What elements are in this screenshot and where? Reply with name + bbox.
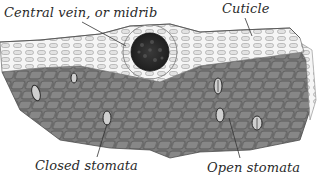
leaf-diagram: Central vein, or midrib Cuticle Closed s… — [0, 0, 323, 182]
midrib-label: Central vein, or midrib — [4, 5, 157, 20]
closed-stomata-label: Closed stomata — [35, 158, 138, 173]
stoma-icon — [216, 108, 224, 122]
open-stomata-label: Open stomata — [207, 160, 300, 175]
stoma-icon — [71, 73, 77, 83]
leaf-illustration — [0, 0, 323, 182]
cuticle-label: Cuticle — [222, 1, 270, 16]
midrib-vein — [131, 33, 169, 71]
stoma-icon — [103, 111, 111, 125]
